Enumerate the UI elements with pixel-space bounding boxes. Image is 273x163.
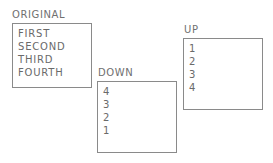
list-item: 1 <box>189 42 257 55</box>
down-list: 4 3 2 1 <box>97 81 177 153</box>
list-item: 2 <box>103 111 171 124</box>
list-item: SECOND <box>18 40 86 53</box>
original-title: ORIGINAL <box>12 10 65 20</box>
up-title: UP <box>184 25 199 35</box>
up-list: 1 2 3 4 <box>183 38 263 110</box>
list-item: FOURTH <box>18 66 86 79</box>
original-list: FIRST SECOND THIRD FOURTH <box>12 23 92 88</box>
list-item: 3 <box>189 68 257 81</box>
list-item: 1 <box>103 124 171 137</box>
list-item: 3 <box>103 98 171 111</box>
list-item: 4 <box>103 85 171 98</box>
down-title: DOWN <box>98 68 133 78</box>
list-item: FIRST <box>18 27 86 40</box>
list-item: THIRD <box>18 53 86 66</box>
list-item: 2 <box>189 55 257 68</box>
list-item: 4 <box>189 81 257 94</box>
